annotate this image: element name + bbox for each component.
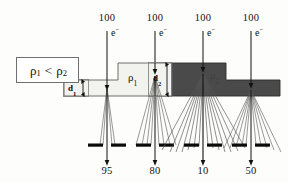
beam-4-incident-count: 100: [234, 13, 268, 24]
beam-2-group: [136, 31, 176, 163]
high-density-slab-shape: [172, 63, 280, 96]
beam-1-incident-count: 100: [90, 13, 124, 24]
beam-3-group: [162, 31, 245, 163]
beam-4-scatter-fan: [224, 90, 281, 152]
beam-4-particle-label: e−: [255, 27, 263, 38]
beam-4-group: [224, 31, 281, 163]
diagram-canvas: [0, 0, 288, 182]
beam-2-incident-count: 100: [138, 13, 172, 24]
legend-operator: <: [45, 63, 52, 79]
density-comparison-text: ρ1 < ρ2: [17, 58, 80, 84]
beam-3-transmitted-count: 10: [186, 166, 220, 177]
beam-3-particle-label: e−: [207, 27, 215, 38]
electron-scattering-diagram: ρ1 < ρ2 100 100 100 100 e− e− e− e− ρ1 ρ…: [0, 0, 288, 182]
d2-thickness-label: d2: [153, 74, 161, 85]
beam-1-group: [88, 31, 126, 163]
beam-1-transmitted-count: 95: [90, 166, 124, 177]
legend-rho2-sub: 2: [63, 68, 67, 78]
high-density-material-label: ρ2: [210, 70, 219, 84]
beam-4-transmitted-count: 50: [234, 166, 268, 177]
d1-thickness-label: d1: [68, 84, 76, 95]
beam-3-incident-count: 100: [186, 13, 220, 24]
low-density-material-label: ρ1: [128, 72, 137, 86]
beam-2-particle-label: e−: [159, 27, 167, 38]
beam-1-particle-label: e−: [111, 27, 119, 38]
beam-2-transmitted-count: 80: [138, 166, 172, 177]
legend-rho1-sub: 1: [37, 68, 41, 78]
density-comparison-legend: ρ1 < ρ2: [16, 57, 79, 83]
